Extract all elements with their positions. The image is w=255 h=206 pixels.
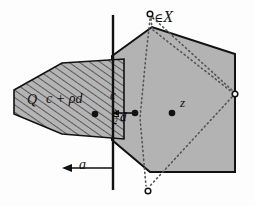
fraction-numerator: ρ bbox=[113, 108, 119, 116]
fraction-denominator: 2 bbox=[113, 118, 119, 126]
label-membership-x: ∘∈X bbox=[150, 8, 173, 26]
element-of-icon: ∈ bbox=[154, 11, 163, 25]
label-region-q: Q bbox=[27, 92, 37, 108]
label-step-vector-d: d bbox=[120, 109, 127, 125]
label-point-z: z bbox=[180, 95, 185, 111]
figure-canvas: Q c + ρd c z a ∘∈X ρ 2 d bbox=[0, 0, 255, 206]
diagram-svg bbox=[0, 0, 255, 206]
label-point-c-plus-rho-d: c + ρd bbox=[46, 91, 82, 107]
label-rho-half-d: ρ 2 d bbox=[112, 108, 127, 125]
point-z-dot bbox=[169, 110, 176, 117]
set-x-polygon bbox=[112, 27, 235, 172]
vertex-circle-right-icon bbox=[232, 91, 238, 97]
label-set-x: X bbox=[163, 8, 173, 25]
label-vector-a: a bbox=[79, 157, 86, 173]
fraction-rho-over-two: ρ 2 bbox=[112, 108, 119, 125]
label-point-c: c bbox=[110, 87, 116, 103]
arrow-a-head bbox=[62, 164, 72, 172]
vertex-circle-bottom-icon bbox=[145, 188, 151, 194]
point-c-plus-rho-d-dot bbox=[92, 111, 99, 118]
